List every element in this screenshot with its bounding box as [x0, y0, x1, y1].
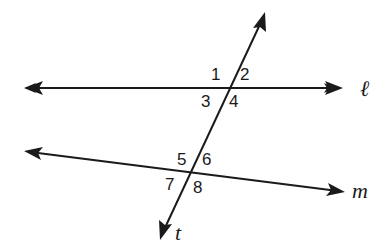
diagram-canvas: 1 2 3 4 5 6 7 8 ℓ m t — [0, 0, 385, 250]
angle-4: 4 — [229, 92, 238, 111]
angle-3: 3 — [201, 92, 210, 111]
angle-5: 5 — [177, 150, 186, 169]
angle-1: 1 — [211, 65, 220, 84]
angle-7: 7 — [165, 175, 174, 194]
line-t — [159, 12, 266, 240]
label-t: t — [175, 220, 182, 245]
angle-2: 2 — [240, 65, 249, 84]
angle-8: 8 — [193, 178, 202, 197]
arrow-bottom-t-icon — [159, 220, 172, 240]
transversal-diagram: 1 2 3 4 5 6 7 8 ℓ m t — [0, 0, 385, 250]
angle-6: 6 — [202, 150, 211, 169]
arrow-top-t-icon — [253, 12, 266, 32]
label-l: ℓ — [360, 76, 370, 101]
label-m: m — [352, 178, 368, 203]
line-l — [25, 81, 343, 95]
